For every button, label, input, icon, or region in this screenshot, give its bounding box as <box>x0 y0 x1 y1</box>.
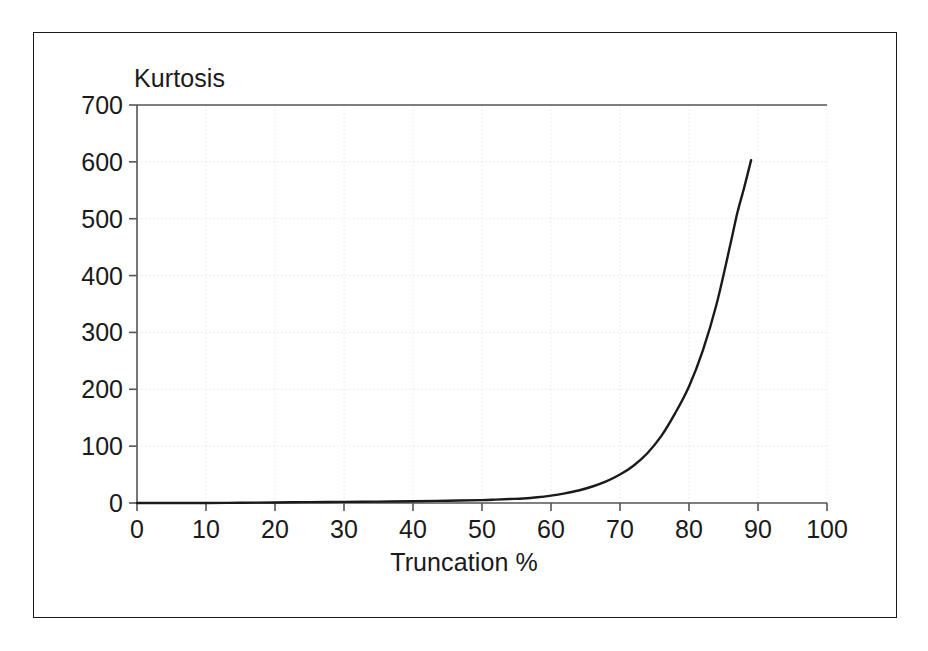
y-tick-label: 100 <box>40 432 123 461</box>
x-tick-label: 30 <box>330 515 358 544</box>
y-tick-label: 0 <box>40 489 123 518</box>
x-tick-label: 10 <box>192 515 220 544</box>
x-axis-ticks <box>137 503 827 511</box>
y-axis-ticks <box>129 105 137 503</box>
y-axis-title: Kurtosis <box>134 64 225 93</box>
x-tick-label: 20 <box>261 515 289 544</box>
x-axis-title: Truncation % <box>0 548 928 577</box>
y-tick-label: 700 <box>40 91 123 120</box>
y-tick-label: 600 <box>40 147 123 176</box>
x-tick-label: 0 <box>130 515 144 544</box>
x-tick-label: 50 <box>468 515 496 544</box>
y-tick-label: 200 <box>40 375 123 404</box>
x-tick-label: 40 <box>399 515 427 544</box>
x-tick-label: 60 <box>537 515 565 544</box>
y-tick-label: 400 <box>40 261 123 290</box>
y-tick-label: 300 <box>40 318 123 347</box>
x-tick-label: 90 <box>744 515 772 544</box>
horizontal-gridlines <box>137 162 827 446</box>
chart-figure: Kurtosis Truncation % 010020030040050060… <box>0 0 928 651</box>
plot-axes-frame <box>137 105 827 503</box>
x-tick-label: 100 <box>806 515 848 544</box>
kurtosis-curve <box>137 160 751 503</box>
vertical-gridlines <box>206 105 827 503</box>
x-tick-label: 70 <box>606 515 634 544</box>
y-tick-label: 500 <box>40 204 123 233</box>
x-tick-label: 80 <box>675 515 703 544</box>
